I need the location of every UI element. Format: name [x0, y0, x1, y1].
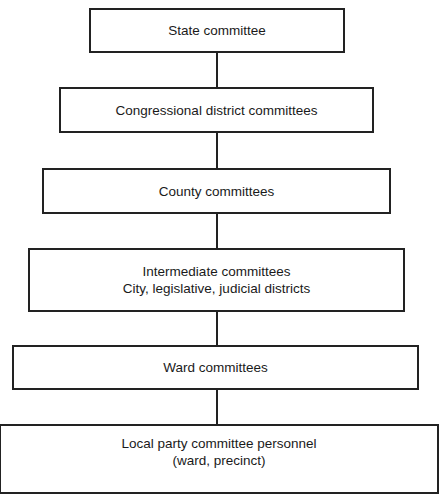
node-ward-committees: Ward committees [12, 345, 419, 390]
node-label: Congressional district committees [116, 102, 318, 119]
node-county-committees: County committees [42, 168, 391, 214]
node-sublabel: City, legislative, judicial districts [123, 280, 310, 297]
node-state-committee: State committee [89, 8, 345, 53]
node-congressional-district-committees: Congressional district committees [59, 87, 374, 133]
connector-line [216, 312, 218, 345]
node-label: County committees [159, 183, 275, 200]
node-label: Intermediate committees [143, 263, 291, 280]
node-local-party-committee-personnel: Local party committee personnel (ward, p… [0, 424, 439, 494]
connector-line [216, 214, 218, 248]
connector-line [216, 133, 218, 168]
node-label: Ward committees [163, 359, 268, 376]
connector-line [216, 53, 218, 87]
node-sublabel: (ward, precinct) [172, 452, 265, 469]
node-intermediate-committees: Intermediate committees City, legislativ… [28, 248, 405, 312]
node-label: Local party committee personnel [121, 435, 316, 452]
connector-line [216, 390, 218, 424]
node-label: State committee [168, 22, 266, 39]
